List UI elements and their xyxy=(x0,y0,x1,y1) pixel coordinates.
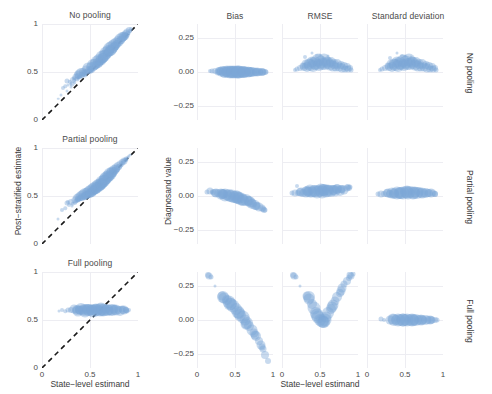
data-point xyxy=(293,275,298,280)
data-point xyxy=(121,32,129,40)
gridline-horizontal xyxy=(282,38,358,39)
data-point xyxy=(232,192,244,204)
identity-reference-line xyxy=(42,272,138,368)
data-point xyxy=(247,199,257,209)
right-y-tick: −0.25 xyxy=(160,101,194,110)
right-y-tick: 0.00 xyxy=(160,315,194,324)
diagnostic-figure: Post−stratified estimate No pooling Part… xyxy=(0,0,492,394)
data-point xyxy=(69,83,72,86)
data-point xyxy=(332,184,342,194)
data-point xyxy=(87,66,93,72)
right-x-tick: 0 xyxy=(182,370,212,379)
data-point xyxy=(326,55,329,58)
left-x-tick: 0.5 xyxy=(75,370,105,379)
data-point xyxy=(73,201,77,205)
data-point xyxy=(97,304,110,317)
data-point xyxy=(265,358,271,364)
data-point xyxy=(317,184,329,196)
gridline-horizontal xyxy=(367,106,443,107)
row-label-partial-pooling: Partial pooling xyxy=(465,147,475,247)
data-point xyxy=(425,63,428,66)
right-y-tick: 0.25 xyxy=(160,281,194,290)
data-point xyxy=(328,59,331,62)
left-y-tick: 1 xyxy=(8,143,38,152)
data-point xyxy=(106,168,116,178)
data-point xyxy=(318,316,330,328)
data-point xyxy=(431,66,434,69)
data-point xyxy=(129,27,133,31)
data-point xyxy=(334,61,337,64)
left-panel-title-2: Full pooling xyxy=(35,258,145,268)
data-point xyxy=(76,76,79,79)
left-panel-title-0: No pooling xyxy=(35,10,145,20)
data-point xyxy=(214,284,217,287)
left-x-tick: 0 xyxy=(27,370,57,379)
data-point xyxy=(124,156,129,161)
gridline-horizontal xyxy=(197,286,273,287)
panel-full-pooling-bias xyxy=(197,272,273,368)
data-point xyxy=(233,307,245,319)
gridline-horizontal xyxy=(367,286,443,287)
left-y-tick: 0.5 xyxy=(8,191,38,200)
data-point xyxy=(348,184,353,189)
left-x-tick: 1 xyxy=(123,370,153,379)
data-point xyxy=(210,190,214,194)
data-point xyxy=(299,284,302,287)
left-x-axis-label: State−level estimand xyxy=(20,379,160,389)
data-point xyxy=(250,331,259,340)
data-point xyxy=(305,187,314,196)
left-y-tick: 1 xyxy=(8,267,38,276)
right-y-tick: 0.00 xyxy=(160,67,194,76)
data-point xyxy=(309,57,312,60)
data-point xyxy=(259,343,266,350)
panel-full-pooling-rmse xyxy=(282,272,358,368)
data-point xyxy=(220,189,229,198)
data-point xyxy=(57,98,60,101)
right-y-tick: −0.25 xyxy=(160,349,194,358)
data-point xyxy=(432,191,438,197)
right-x-axis-label: State−level estimand xyxy=(250,379,390,389)
left-y-tick: 0 xyxy=(8,239,38,248)
data-point xyxy=(303,55,307,59)
data-point xyxy=(434,67,439,72)
panel-partial-pooling-bias xyxy=(197,148,273,244)
gridline-horizontal xyxy=(197,320,273,321)
data-point xyxy=(295,184,299,188)
data-point xyxy=(413,60,416,63)
data-point xyxy=(72,78,76,82)
right-x-tick: 0.5 xyxy=(390,370,420,379)
data-point xyxy=(340,63,343,66)
data-point xyxy=(394,58,397,61)
row-label-full-pooling: Full pooling xyxy=(465,271,475,371)
gridline-horizontal xyxy=(282,354,358,355)
data-point xyxy=(303,291,315,303)
right-x-tick: 1 xyxy=(428,370,458,379)
left-y-tick: 0.5 xyxy=(8,67,38,76)
data-point xyxy=(427,316,435,324)
data-point xyxy=(129,153,132,156)
data-point xyxy=(263,208,268,213)
data-point xyxy=(208,275,213,280)
data-point xyxy=(105,46,114,55)
data-point xyxy=(85,191,91,197)
right-column-title-1: RMSE xyxy=(281,11,359,21)
data-point xyxy=(388,56,392,60)
panel-no-pooling-bias xyxy=(197,24,273,120)
gridline-horizontal xyxy=(197,162,273,163)
gridline-horizontal xyxy=(197,230,273,231)
panel-no-pooling-sd xyxy=(367,24,443,120)
data-point xyxy=(410,55,413,58)
data-point xyxy=(337,286,346,295)
right-y-tick: 0.00 xyxy=(160,191,194,200)
gridline-horizontal xyxy=(282,230,358,231)
data-point xyxy=(63,207,67,211)
right-x-tick: 0 xyxy=(352,370,382,379)
gridline-horizontal xyxy=(367,354,443,355)
right-x-tick: 0.5 xyxy=(220,370,250,379)
gridline-horizontal xyxy=(367,38,443,39)
left-y-tick: 1 xyxy=(8,19,38,28)
panel-partial-pooling-scatter xyxy=(42,148,138,244)
data-point xyxy=(404,54,407,57)
right-column-title-0: Bias xyxy=(196,11,274,21)
data-point xyxy=(311,51,314,54)
